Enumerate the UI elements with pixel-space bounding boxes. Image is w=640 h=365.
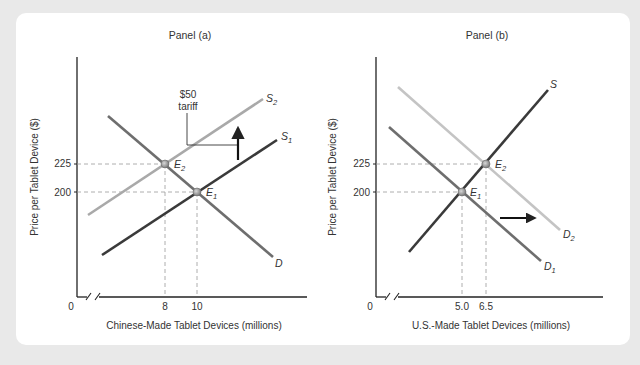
panel-a-tariff-leader [187, 113, 237, 145]
panel-a-ytick-225: 225 [54, 158, 71, 169]
panel-a-title: Panel (a) [169, 29, 212, 41]
panel-b: Panel (b) Price per Tablet Device ($) U.… [327, 29, 603, 331]
panel-a-x-label: Chinese-Made Tablet Devices (millions) [106, 320, 281, 331]
panel-b-ytick-225: 225 [353, 158, 370, 169]
panel-a-s2-label: S2 [266, 92, 278, 107]
panel-b-y-label: Price per Tablet Device ($) [327, 118, 338, 236]
panel-a-s1-label: S1 [281, 130, 292, 145]
panel-b-d2-curve [398, 87, 560, 230]
panel-b-xtick-5: 5.0 [455, 301, 469, 312]
panel-a-xtick-8: 8 [162, 301, 168, 312]
panel-b-e1-point [458, 188, 466, 196]
panel-b-origin: 0 [367, 301, 373, 312]
panel-a-e1-label: E1 [206, 186, 217, 201]
panel-a-e2-label: E2 [174, 158, 186, 173]
panel-a-xtick-10: 10 [191, 301, 203, 312]
panel-a-origin: 0 [68, 301, 74, 312]
panel-b-ytick-200: 200 [353, 187, 370, 198]
panel-a-tariff-label-2: tariff [178, 101, 197, 112]
panel-b-axis-break-icon [385, 293, 399, 300]
panel-a-d-label: D [275, 257, 283, 269]
panel-b-s-label: S [550, 78, 557, 90]
panel-a-axis-break-icon [86, 293, 100, 300]
panel-a: Panel (a) Price per Tablet Device ($) Ch… [29, 29, 307, 331]
panel-b-d2-label: D2 [563, 228, 576, 243]
panel-b-title: Panel (b) [466, 29, 509, 41]
panel-a-ytick-200: 200 [54, 187, 71, 198]
panel-b-d1-label: D1 [544, 260, 556, 275]
panel-b-guides [376, 164, 486, 297]
panel-a-y-label: Price per Tablet Device ($) [29, 118, 40, 236]
panel-a-tariff-label-1: $50 [180, 89, 197, 100]
panel-a-e2-point [161, 160, 169, 168]
panel-a-s2-curve [88, 99, 263, 215]
panel-b-x-label: U.S.-Made Tablet Devices (millions) [412, 320, 570, 331]
figure-svg: Panel (a) Price per Tablet Device ($) Ch… [0, 0, 640, 365]
panel-b-xtick-6-5: 6.5 [479, 301, 493, 312]
panel-a-e1-point [193, 188, 201, 196]
panel-b-e2-point [482, 160, 490, 168]
panel-b-e2-label: E2 [495, 158, 507, 173]
